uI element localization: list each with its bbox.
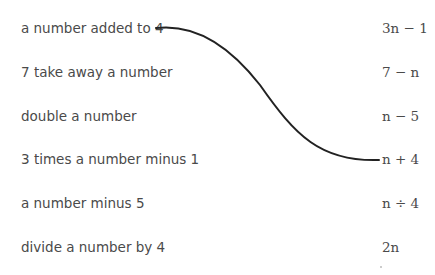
connection-line: [0, 0, 435, 275]
stray-mark: [380, 266, 382, 268]
